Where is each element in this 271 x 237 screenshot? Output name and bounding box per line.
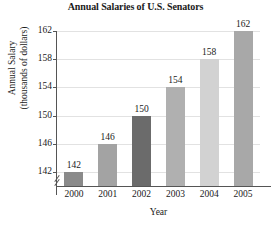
chart-title: Annual Salaries of U.S. Senators <box>0 1 271 12</box>
y-tick-label: 154 <box>38 81 52 91</box>
x-tick-label-2003: 2003 <box>166 189 185 199</box>
bar-value-label: 146 <box>101 132 115 142</box>
y-axis-title-line-2: (thousands of dollars) <box>18 27 30 110</box>
bar-2004[interactable]: 158 <box>200 59 219 186</box>
y-axis-title-line-1: Annual Salary <box>6 41 18 96</box>
y-axis-title: Annual Salary (thousands of dollars) <box>5 0 31 138</box>
bar-value-label: 154 <box>168 75 182 85</box>
gridline <box>57 144 260 145</box>
x-axis-title: Year <box>57 207 260 217</box>
y-tick-mark <box>53 31 57 32</box>
gridline <box>57 172 260 173</box>
gridline <box>57 87 260 88</box>
x-tick-label-2001: 2001 <box>98 189 117 199</box>
y-tick-label: 158 <box>38 53 52 63</box>
gridline <box>57 116 260 117</box>
bar-value-label: 162 <box>236 19 250 29</box>
y-tick-mark <box>53 172 57 173</box>
y-tick-label: 162 <box>38 25 52 35</box>
bar-2002[interactable]: 150 <box>132 116 151 186</box>
bar-value-label: 158 <box>202 47 216 57</box>
x-axis-line <box>56 186 271 187</box>
y-tick-mark <box>53 59 57 60</box>
gridline <box>57 31 260 32</box>
x-tick-label-2000: 2000 <box>64 189 83 199</box>
y-tick-label: 142 <box>38 166 52 176</box>
bar-2005[interactable]: 162 <box>234 31 253 186</box>
x-tick-label-2005: 2005 <box>234 189 253 199</box>
bar-2001[interactable]: 146 <box>98 144 117 186</box>
y-tick-mark <box>53 87 57 88</box>
y-axis-line <box>56 31 57 195</box>
gridline <box>57 59 260 60</box>
bar-2003[interactable]: 154 <box>166 87 185 186</box>
bar-value-label: 142 <box>67 160 81 170</box>
x-tick-label-2004: 2004 <box>200 189 219 199</box>
y-tick-mark <box>53 116 57 117</box>
plot-area: 142146150154158162 142146150154158162 20… <box>57 31 260 186</box>
y-tick-label: 146 <box>38 138 52 148</box>
y-axis-break-icon <box>53 175 61 186</box>
bar-2000[interactable]: 142 <box>64 172 83 186</box>
y-tick-label: 150 <box>38 110 52 120</box>
x-tick-label-2002: 2002 <box>132 189 151 199</box>
bar-chart-figure: Annual Salaries of U.S. Senators Annual … <box>0 0 271 237</box>
bar-value-label: 150 <box>134 104 148 114</box>
y-tick-mark <box>53 144 57 145</box>
